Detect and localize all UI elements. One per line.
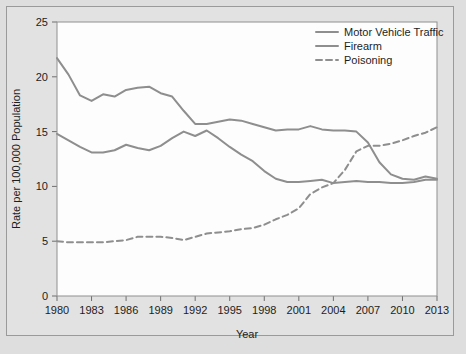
x-axis-title: Year <box>236 328 259 340</box>
x-tick-label: 2010 <box>390 304 414 316</box>
x-tick-label: 1986 <box>114 304 138 316</box>
y-tick-label: 25 <box>36 16 48 28</box>
y-axis-title: Rate per 100,000 Population <box>10 89 22 229</box>
y-axis-ticks: 0510152025 <box>36 16 57 302</box>
x-tick-label: 2001 <box>287 304 311 316</box>
x-tick-label: 1992 <box>183 304 207 316</box>
x-tick-label: 1983 <box>79 304 103 316</box>
x-axis-ticks: 1980198319861989199219951998200120042007… <box>45 296 449 316</box>
y-tick-label: 5 <box>42 235 48 247</box>
x-tick-label: 1989 <box>148 304 172 316</box>
legend-label-0: Motor Vehicle Traffic <box>344 26 444 38</box>
x-tick-label: 1995 <box>217 304 241 316</box>
x-tick-label: 1980 <box>45 304 69 316</box>
legend-label-1: Firearm <box>344 40 382 52</box>
x-tick-label: 2013 <box>425 304 449 316</box>
y-tick-label: 15 <box>36 126 48 138</box>
y-tick-label: 10 <box>36 180 48 192</box>
x-tick-label: 2004 <box>321 304 345 316</box>
y-tick-label: 20 <box>36 71 48 83</box>
legend-label-2: Poisoning <box>344 54 392 66</box>
line-chart: 0510152025 19801983198619891992199519982… <box>0 0 466 354</box>
y-tick-label: 0 <box>42 290 48 302</box>
chart-figure: 0510152025 19801983198619891992199519982… <box>0 0 466 354</box>
x-tick-label: 2007 <box>356 304 380 316</box>
x-tick-label: 1998 <box>252 304 276 316</box>
